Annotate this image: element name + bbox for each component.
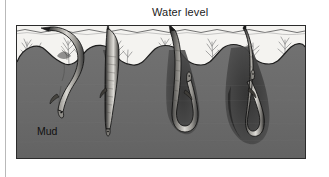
eel-3-head	[187, 72, 192, 82]
eel-2-tail	[107, 26, 109, 29]
eel-burrowing-illustration	[17, 26, 305, 158]
eel-3-eye	[188, 75, 190, 77]
illustration-frame	[16, 25, 306, 159]
eel-2-eye	[107, 131, 109, 133]
eel-1-eye	[60, 112, 62, 114]
water-level-caption: Water level	[152, 6, 208, 19]
mud-label: Mud	[37, 125, 57, 137]
page-margin-rule	[5, 0, 6, 177]
eel-4-eye	[252, 73, 254, 75]
figure-root: Water level	[0, 0, 329, 177]
eel-2-head	[106, 129, 110, 136]
eel-4-head	[251, 70, 255, 80]
